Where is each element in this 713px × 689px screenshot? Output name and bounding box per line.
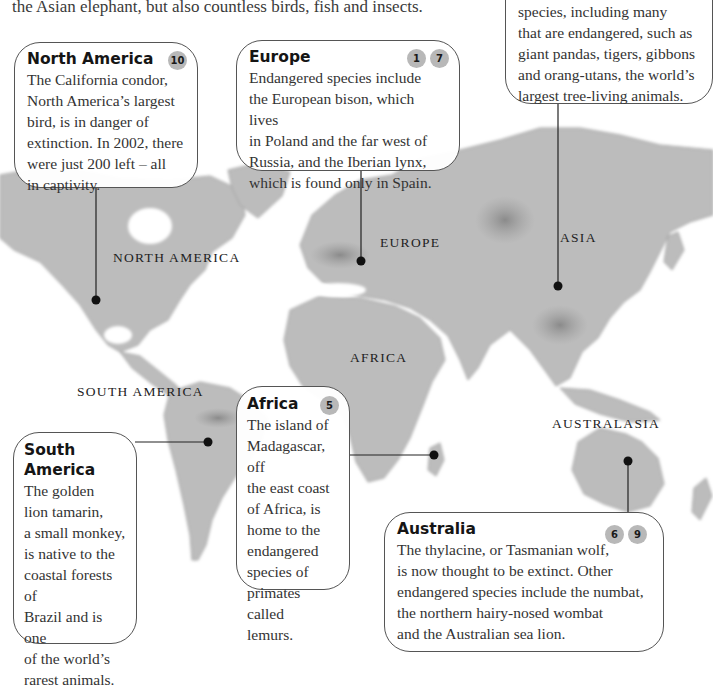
- landmass-new-zealand: [692, 478, 712, 520]
- landmass-madagascar: [428, 443, 444, 476]
- page-ref-badge: 6: [605, 525, 624, 544]
- callout-text: The thylacine, or Tasmanian wolf, is now…: [397, 539, 651, 644]
- page-ref-badge: 10: [168, 51, 187, 70]
- marker-dot-north-america: [92, 296, 101, 305]
- marker-dot-australia: [624, 457, 633, 466]
- landmass-australia: [572, 428, 664, 512]
- page-ref-badge: 1: [407, 49, 426, 68]
- marker-dot-asia: [554, 282, 563, 291]
- callout-text: The island of Madagascar, off the east c…: [247, 414, 339, 645]
- callout-text: The golden lion tamarin, a small monkey,…: [24, 480, 126, 689]
- label-europe: EUROPE: [380, 235, 440, 251]
- callout-asia-text: species, including many that are endange…: [518, 1, 700, 106]
- callout-europe: Europe 1 7 Endangered species include th…: [236, 40, 460, 171]
- page-ref-badges: 10: [168, 51, 187, 70]
- marker-dot-africa: [430, 451, 439, 460]
- page-ref-badges: 1 7: [407, 49, 449, 68]
- label-australasia: AUSTRALASIA: [552, 416, 660, 432]
- callout-title: South America: [24, 440, 126, 480]
- marker-dot-europe: [357, 257, 366, 266]
- callout-text: Endangered species include the European …: [249, 67, 447, 193]
- marker-dot-south-america: [204, 438, 213, 447]
- callout-asia: species, including many that are endange…: [505, 0, 713, 104]
- page-ref-badges: 5: [320, 396, 339, 415]
- label-south-america: SOUTH AMERICA: [77, 384, 204, 400]
- intro-text: the Asian elephant, but also countless b…: [12, 0, 423, 18]
- label-north-america: NORTH AMERICA: [113, 250, 240, 266]
- callout-australia: Australia 6 9 The thylacine, or Tasmania…: [384, 512, 664, 652]
- callout-text: The California condor, North America’s l…: [27, 69, 185, 195]
- callout-title: North America: [27, 49, 185, 69]
- page-ref-badge: 5: [320, 396, 339, 415]
- callout-africa: Africa 5 The island of Madagascar, off t…: [236, 386, 350, 590]
- label-africa: AFRICA: [350, 350, 407, 366]
- page-ref-badge: 9: [628, 525, 647, 544]
- callout-north-america: North America 10 The California condor, …: [14, 42, 198, 188]
- callout-south-america: South America The golden lion tamarin, a…: [13, 432, 137, 644]
- page-ref-badge: 7: [430, 49, 449, 68]
- label-asia: ASIA: [560, 230, 597, 246]
- page-ref-badges: 6 9: [605, 525, 647, 544]
